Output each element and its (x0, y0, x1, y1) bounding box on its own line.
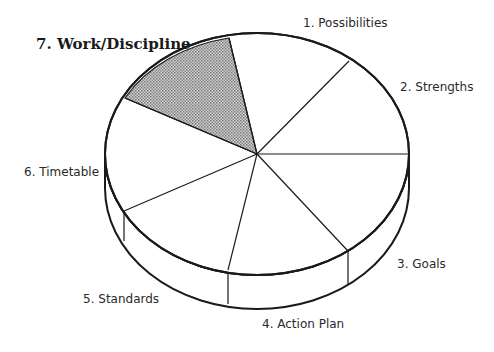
label-strengths: 2. Strengths (400, 80, 473, 94)
label-action-plan: 4. Action Plan (262, 317, 344, 331)
label-work-discipline: 7. Work/Discipline (36, 35, 191, 53)
label-goals: 3. Goals (397, 257, 446, 271)
label-possibilities: 1. Possibilities (303, 16, 388, 30)
label-standards: 5. Standards (83, 292, 159, 306)
label-timetable: 6. Timetable (24, 165, 99, 179)
